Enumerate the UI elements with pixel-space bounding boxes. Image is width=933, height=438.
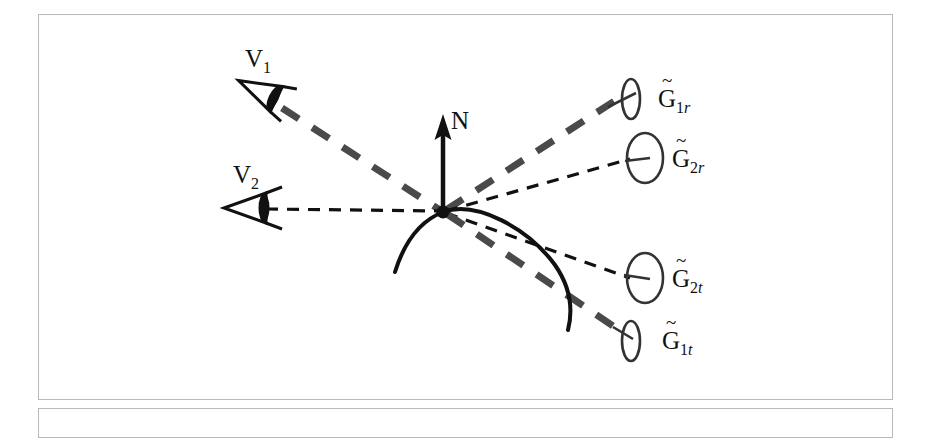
curved-surface (395, 209, 570, 330)
label-g1r: ~G1r (658, 86, 690, 111)
label-g2r: ~G2r (672, 146, 704, 171)
target-g2r (625, 133, 663, 183)
ray-origin-to-g2r (446, 159, 630, 211)
ray-v2-to-origin (266, 209, 441, 211)
eye-v2-pupil (259, 194, 270, 222)
target-g1r (608, 79, 640, 119)
label-v2: V2 (233, 162, 259, 187)
surface-origin-point (437, 206, 450, 219)
normal-arrow (435, 114, 452, 211)
label-normal: N (451, 108, 469, 133)
label-g2t: ~G2t (672, 266, 703, 291)
label-v1: V1 (245, 46, 271, 71)
target-g1t (613, 321, 640, 361)
ray-origin-to-g1r (446, 100, 616, 210)
ray-origin-to-g1t (447, 214, 625, 334)
label-g1t: ~G1t (662, 328, 693, 353)
ray-v1-to-origin (282, 108, 440, 210)
